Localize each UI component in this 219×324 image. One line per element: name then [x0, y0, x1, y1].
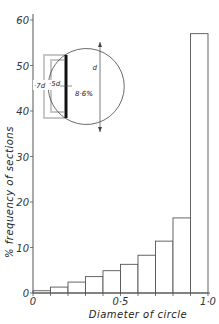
y-tick-label: 20 — [16, 197, 29, 208]
percent-label: 8·6% — [75, 90, 93, 98]
y-tick-label: 30 — [16, 152, 29, 163]
x-tick-label: 1·0 — [200, 296, 216, 307]
y-tick-label: 50 — [16, 61, 29, 72]
histogram-bar — [121, 264, 139, 293]
outer-chord-label: ·7d — [34, 82, 46, 90]
histogram-bar — [191, 34, 209, 293]
diameter-label: d — [93, 64, 98, 72]
histogram-bar — [156, 241, 174, 293]
y-tick-label: 60 — [16, 15, 29, 26]
histogram-bar — [68, 282, 86, 293]
x-tick-label: 0 — [30, 296, 36, 307]
histogram-bar — [86, 277, 104, 293]
y-tick-label: 0 — [23, 288, 29, 299]
inner-chord-label: ·5d — [49, 80, 61, 88]
y-tick-label: 40 — [16, 106, 29, 117]
histogram-bar — [138, 255, 156, 293]
histogram-bar — [51, 287, 69, 293]
inset-circle-diagram: d ·7d ·5d 8·6% — [33, 42, 124, 132]
x-tick-label: 0·5 — [113, 296, 129, 307]
y-ticks: 0102030405060 — [16, 15, 33, 299]
histogram-bar — [173, 218, 191, 293]
x-axis-title: Diameter of circle — [89, 309, 188, 320]
y-axis-title: % frequency of sections — [4, 126, 15, 258]
histogram-bar — [103, 271, 121, 293]
histogram-chart: 0102030405060 00·51·0 Diameter of circle… — [0, 0, 219, 324]
y-tick-label: 10 — [16, 243, 29, 254]
x-ticks: 00·51·0 — [30, 293, 216, 307]
